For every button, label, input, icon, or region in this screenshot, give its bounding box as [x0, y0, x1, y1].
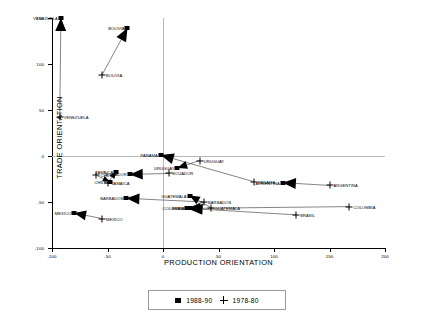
point-end-venezuela[interactable] — [58, 16, 63, 20]
arrow-shaft — [296, 183, 330, 185]
point-start-chile[interactable] — [93, 172, 100, 179]
point-end-bolivia[interactable] — [125, 26, 130, 30]
point-end-label-panama: PANAMA — [140, 153, 157, 158]
point-start-brasil[interactable] — [293, 211, 300, 218]
x-tick — [163, 248, 164, 252]
point-start-label-guatemala: GUATEMALA — [215, 205, 240, 210]
x-tick — [385, 248, 386, 252]
legend-item-0: 1988-90 — [175, 297, 212, 304]
x-tick — [52, 248, 53, 252]
point-end-label-chile: CHILE — [94, 179, 106, 184]
point-start-label-colombia: COLOMBIA — [353, 204, 375, 209]
point-start-mexico[interactable] — [98, 215, 105, 222]
arrow-shaft — [203, 209, 297, 215]
point-start-label-bolivia: BOLIVIA — [106, 73, 122, 78]
point-start-label-chile: CHILE — [100, 173, 112, 178]
y-tick — [48, 248, 52, 249]
point-end-label-bolivia: BOLIVIA — [108, 26, 124, 31]
point-start-colombia[interactable] — [346, 203, 353, 210]
point-start-label-jamaica: JAMAICA — [112, 180, 130, 185]
point-start-label-mexico: MEXICO — [106, 216, 122, 221]
point-end-panama[interactable] — [158, 153, 163, 157]
chart-legend: 1988-90 1978-80 — [148, 290, 286, 310]
point-end-guatemala[interactable] — [187, 194, 192, 198]
point-end-label-guatemala: GUATEMALA — [161, 193, 186, 198]
point-start-barbados[interactable] — [201, 199, 208, 206]
legend-label-1: 1978-80 — [233, 297, 259, 304]
point-end-barbados[interactable] — [124, 196, 129, 200]
point-start-label-uruguay: URUGUAY — [204, 158, 225, 163]
plus-marker-icon — [220, 296, 228, 304]
y-tick-label: 0 — [41, 154, 44, 159]
point-start-guatemala[interactable] — [207, 204, 214, 211]
x-tick — [274, 248, 275, 252]
point-start-label-ecuador: ECUADOR — [173, 171, 194, 176]
y-tick-label: -100 — [35, 246, 44, 251]
point-end-chile[interactable] — [107, 180, 112, 184]
point-end-label-venezuela: VENEZUELA — [33, 16, 58, 21]
square-marker-icon — [175, 298, 181, 303]
point-end-argentina[interactable] — [280, 181, 285, 185]
point-start-bolivia[interactable] — [98, 72, 105, 79]
point-start-label-brasil: BRASIL — [300, 212, 315, 217]
y-tick-label: 50 — [39, 108, 44, 113]
point-start-label-argentina: ARGENTINA — [334, 183, 358, 188]
point-end-ecuador[interactable] — [127, 172, 132, 176]
arrow-shaft — [102, 40, 121, 76]
legend-label-0: 1988-90 — [186, 297, 212, 304]
point-start-label-barbados: BARBADOS — [208, 200, 231, 205]
point-start-ecuador[interactable] — [165, 170, 172, 177]
point-start-argentina[interactable] — [326, 182, 333, 189]
x-tick — [219, 248, 220, 252]
y-tick-label: -50 — [37, 200, 44, 205]
point-end-mexico[interactable] — [72, 211, 77, 215]
point-end-jamaica[interactable] — [114, 170, 119, 174]
legend-item-1: 1978-80 — [220, 296, 259, 304]
x-tick — [108, 248, 109, 252]
point-end-label-barbados: BARBADOS — [100, 196, 123, 201]
point-end-uruguay[interactable] — [175, 166, 180, 170]
point-end-brasil[interactable] — [187, 206, 192, 210]
point-start-uruguay[interactable] — [196, 157, 203, 164]
chart-canvas: -100-50050100150200 -100-50050100150 VEN… — [0, 0, 431, 326]
point-end-label-argentina: ARGENTINA — [256, 180, 280, 185]
plot-area: -100-50050100150200 -100-50050100150 VEN… — [52, 18, 385, 248]
point-end-label-brasil: BRASIL — [172, 206, 187, 211]
y-axis-title: TRADE ORIENTATION — [55, 23, 64, 253]
y-tick-label: 100 — [36, 62, 44, 67]
change-arrows — [52, 18, 385, 248]
x-axis-title: PRODUCTION ORIENTATION — [52, 258, 385, 267]
x-tick — [330, 248, 331, 252]
point-start-label-venezuela: VENEZUELA — [64, 115, 89, 120]
